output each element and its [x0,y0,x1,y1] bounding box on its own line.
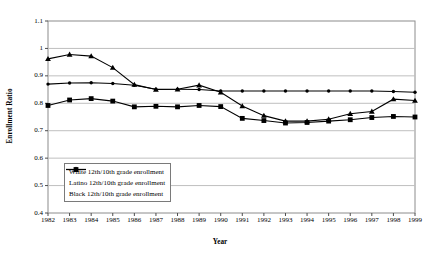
data-point-marker [261,118,266,123]
data-point-marker [391,114,396,119]
data-point-marker [218,104,223,109]
data-point-marker [348,117,353,122]
plot-area [0,0,440,264]
data-point-marker [132,104,137,109]
data-point-marker [241,89,244,92]
legend-item[interactable]: Latino 12th/10th grade enrollment [68,177,165,188]
data-point-marker [111,82,114,85]
data-point-marker [262,89,265,92]
data-point-marker [349,89,352,92]
data-point-marker [46,103,51,108]
data-point-marker [89,81,92,84]
data-point-marker [369,115,374,120]
data-point-marker [305,89,308,92]
chart-legend: White 12th/10th grade enrollmentLatino 1… [64,163,171,202]
enrollment-ratio-line-chart: Enrollment Ratio Year 1.110.90.80.70.60.… [0,0,440,264]
data-point-marker [68,81,71,84]
data-point-marker [413,91,416,94]
legend-marker-triangle [65,164,87,175]
data-point-marker [46,82,49,85]
legend-item[interactable]: Black 12th/10th grade enrollment [68,188,165,199]
data-point-marker [392,90,395,93]
data-point-marker [89,96,94,101]
data-point-marker [284,89,287,92]
data-point-marker [67,98,72,103]
data-point-marker [240,116,245,121]
legend-item-label: Latino 12th/10th grade enrollment [68,179,165,187]
data-point-marker [197,88,200,91]
data-point-marker [197,103,202,108]
data-point-marker [175,104,180,109]
data-point-marker [154,104,159,109]
data-point-marker [327,89,330,92]
legend-item-label: Black 12th/10th grade enrollment [68,190,163,198]
data-point-marker [110,99,115,104]
data-point-marker [413,115,418,120]
data-point-marker [370,89,373,92]
